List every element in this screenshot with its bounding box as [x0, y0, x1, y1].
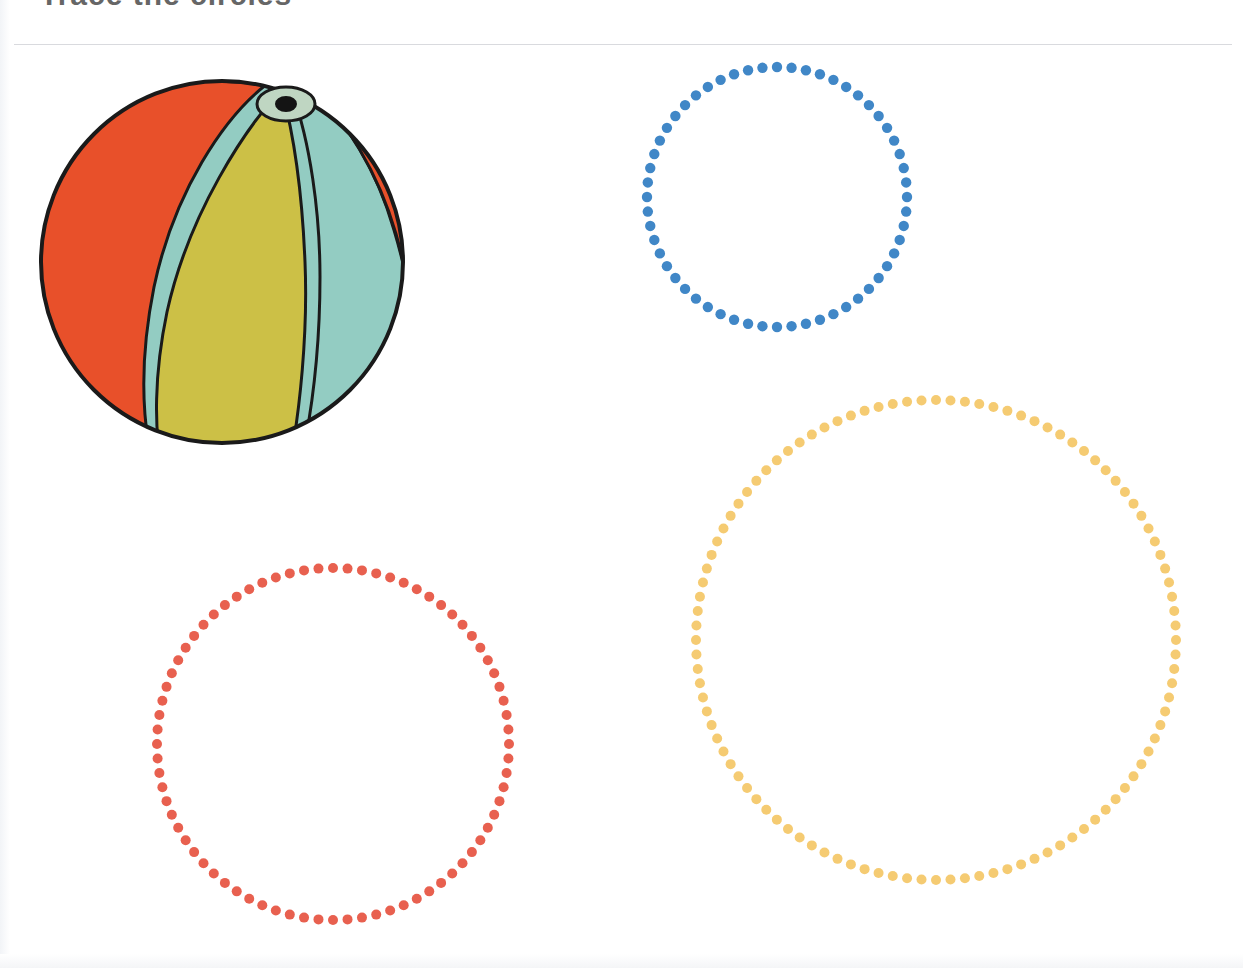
trace-dot	[846, 859, 856, 869]
trace-dot	[988, 868, 998, 878]
trace-dot	[399, 578, 409, 588]
trace-dot	[707, 550, 717, 560]
trace-dot	[424, 592, 434, 602]
trace-dot	[489, 810, 499, 820]
trace-dot	[1150, 734, 1160, 744]
trace-dot	[757, 63, 767, 73]
trace-dot	[313, 914, 323, 924]
trace-dot	[157, 696, 167, 706]
trace-dot	[726, 511, 736, 521]
trace-dot	[761, 465, 771, 475]
trace-dot	[1164, 578, 1174, 588]
trace-dot	[1111, 794, 1121, 804]
trace-dot	[819, 848, 829, 858]
trace-dot	[698, 578, 708, 588]
trace-dot	[232, 592, 242, 602]
trace-dot	[864, 284, 874, 294]
trace-dot	[772, 322, 782, 332]
blue-dotted-circle[interactable]	[640, 60, 920, 340]
trace-dot	[960, 397, 970, 407]
trace-dot	[167, 810, 177, 820]
trace-dot	[1150, 537, 1160, 547]
trace-dot	[931, 875, 941, 885]
trace-dot	[385, 573, 395, 583]
trace-dot	[786, 63, 796, 73]
trace-dot	[772, 62, 782, 72]
trace-dot	[209, 610, 219, 620]
trace-dot	[504, 739, 514, 749]
trace-dot	[783, 446, 793, 456]
trace-dot	[860, 864, 870, 874]
trace-dot	[751, 476, 761, 486]
trace-dot	[467, 631, 477, 641]
trace-dot	[873, 111, 883, 121]
trace-dot	[385, 905, 395, 915]
trace-dot	[424, 886, 434, 896]
trace-dot	[299, 913, 309, 923]
trace-dot	[1002, 406, 1012, 416]
trace-dot	[475, 643, 485, 653]
trace-dot	[645, 163, 655, 173]
trace-dot	[693, 664, 703, 674]
trace-dot	[707, 720, 717, 730]
trace-dot	[1016, 859, 1026, 869]
trace-dot	[436, 878, 446, 888]
gold-dotted-circle[interactable]	[690, 394, 1190, 894]
trace-dot	[899, 221, 909, 231]
trace-dot	[853, 293, 863, 303]
trace-dot	[917, 875, 927, 885]
trace-dot	[833, 416, 843, 426]
trace-dot	[483, 823, 493, 833]
trace-dot	[167, 668, 177, 678]
trace-dot	[447, 610, 457, 620]
trace-dot	[328, 563, 338, 573]
trace-dot	[742, 487, 752, 497]
red-dotted-circle[interactable]	[150, 560, 522, 932]
trace-dot	[271, 573, 281, 583]
trace-dot	[1171, 635, 1181, 645]
trace-dot	[691, 635, 701, 645]
trace-dot	[1002, 864, 1012, 874]
trace-dot	[902, 873, 912, 883]
trace-dot	[436, 600, 446, 610]
trace-dot	[220, 878, 230, 888]
trace-dot	[715, 309, 725, 319]
trace-dot	[503, 754, 513, 764]
trace-dot	[153, 724, 163, 734]
trace-dot	[743, 319, 753, 329]
trace-dot	[199, 858, 209, 868]
trace-dot	[680, 284, 690, 294]
trace-dot	[1136, 759, 1146, 769]
trace-dot	[729, 69, 739, 79]
trace-dot	[1167, 592, 1177, 602]
trace-dot	[152, 739, 162, 749]
trace-dot	[1101, 465, 1111, 475]
trace-dot	[698, 692, 708, 702]
trace-dot	[371, 910, 381, 920]
trace-dot	[853, 90, 863, 100]
trace-dot	[173, 823, 183, 833]
trace-dot	[874, 402, 884, 412]
trace-dot	[399, 900, 409, 910]
trace-dot	[795, 833, 805, 843]
trace-dot	[743, 65, 753, 75]
trace-dot	[662, 123, 672, 133]
trace-dot	[807, 840, 817, 850]
trace-dot	[645, 221, 655, 231]
trace-dot	[1171, 621, 1181, 631]
trace-dot	[945, 395, 955, 405]
trace-dot	[801, 65, 811, 75]
trace-dot	[209, 868, 219, 878]
trace-dot	[643, 206, 653, 216]
trace-dot	[162, 682, 172, 692]
trace-dot	[702, 564, 712, 574]
trace-dot	[475, 835, 485, 845]
trace-dot	[742, 783, 752, 793]
trace-dot	[1169, 606, 1179, 616]
trace-dot	[889, 248, 899, 258]
trace-dot	[888, 399, 898, 409]
trace-dot	[412, 894, 422, 904]
trace-dot	[695, 592, 705, 602]
trace-dot	[1090, 455, 1100, 465]
trace-dot	[494, 796, 504, 806]
